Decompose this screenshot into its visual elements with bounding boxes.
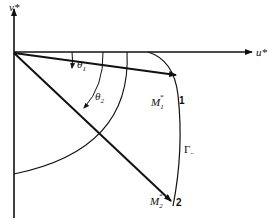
point-1-number: 1 <box>179 95 185 106</box>
theta2-sub: 2 <box>100 97 104 105</box>
vector-m1 <box>14 53 176 75</box>
m2-label: M2* <box>150 195 166 210</box>
m1-label: M1* <box>151 96 167 111</box>
u-axis-label-text: u* <box>256 46 267 58</box>
gamma-sub: − <box>190 150 194 158</box>
theta1-arc <box>72 52 73 68</box>
m2-base: M <box>150 195 159 207</box>
theta1-label: θ1 <box>77 59 86 73</box>
u-axis-label: u* <box>256 47 267 58</box>
vector-m2 <box>14 53 171 201</box>
point-2-label: 2 <box>176 198 182 208</box>
velocity-plane-diagram <box>0 0 274 224</box>
point-1-label: 1 <box>179 96 185 106</box>
theta1-sub: 1 <box>82 65 86 73</box>
m1-sup: * <box>160 93 164 101</box>
m1-base: M <box>151 96 160 108</box>
m2-sup: * <box>159 192 163 200</box>
v-axis-label-text: v* <box>9 1 19 13</box>
gamma-minus-label: Γ− <box>184 144 194 158</box>
theta2-label: θ2 <box>95 91 104 105</box>
v-axis-label: v* <box>9 2 19 13</box>
point-2-number: 2 <box>176 197 182 208</box>
m1-sub: 1 <box>160 103 164 111</box>
m2-sub: 2 <box>159 202 163 210</box>
